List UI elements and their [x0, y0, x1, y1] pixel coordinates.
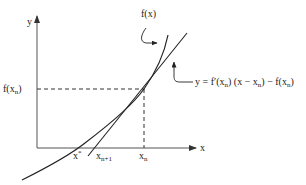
newton-method-diagram: y x f(x) f(xn) x* xn+1 xn y = f′(xn) (x …: [0, 0, 306, 185]
y-axis-label: y: [27, 16, 32, 27]
f-xn-label: f(xn): [3, 83, 22, 96]
tangent-label-leader-arrow: [174, 62, 193, 82]
curve-label: f(x): [141, 8, 156, 20]
tangent-equation-label: y = f′(xn) (x − xn) − f(xn): [195, 76, 294, 89]
x-axis-label: x: [200, 142, 205, 153]
x-n-label: xn: [139, 150, 148, 163]
curve-label-leader-arrow: [142, 28, 158, 43]
x-n-plus-1-label: xn+1: [96, 150, 112, 163]
tangent-line: [88, 33, 187, 156]
x-star-label: x*: [73, 149, 82, 161]
